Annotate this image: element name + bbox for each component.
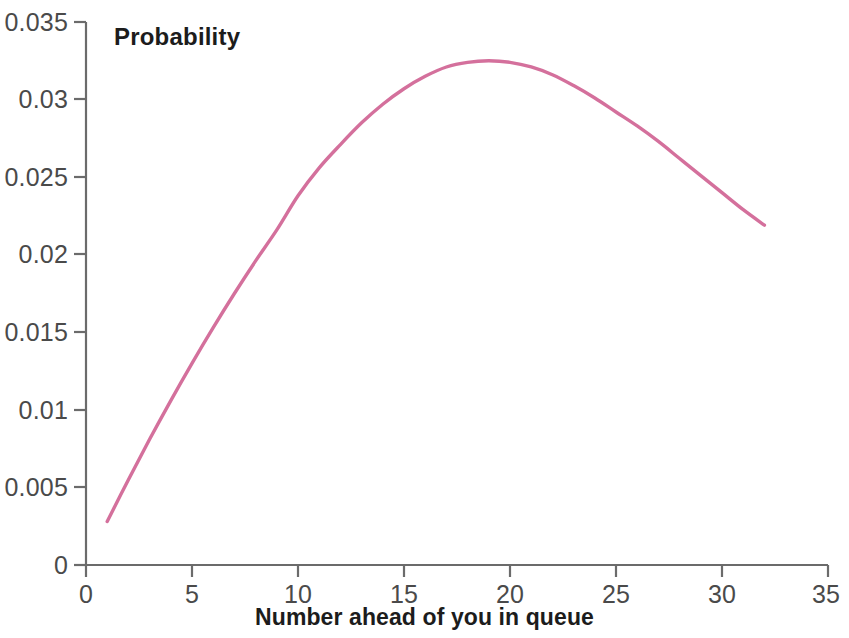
y-axis-ticks [74, 22, 86, 565]
y-tick-label-0.035: 0.035 [0, 8, 68, 37]
y-tick-label-0.02: 0.02 [0, 240, 68, 269]
x-axis-ticks [86, 565, 828, 577]
y-tick-label-0.01: 0.01 [0, 396, 68, 425]
series-label-probability: Probability [114, 23, 240, 51]
y-tick-label-0.025: 0.025 [0, 163, 68, 192]
probability-curve-line [107, 61, 764, 522]
x-axis-title: Number ahead of you in queue [0, 604, 849, 631]
y-tick-label-0.03: 0.03 [0, 85, 68, 114]
probability-queue-chart: 0.035 0.03 0.025 0.02 0.015 0.01 0.005 0… [0, 0, 849, 638]
y-tick-label-0.005: 0.005 [0, 473, 68, 502]
y-tick-label-0.015: 0.015 [0, 318, 68, 347]
y-tick-label-0: 0 [0, 551, 68, 580]
chart-plot-area [0, 0, 849, 638]
